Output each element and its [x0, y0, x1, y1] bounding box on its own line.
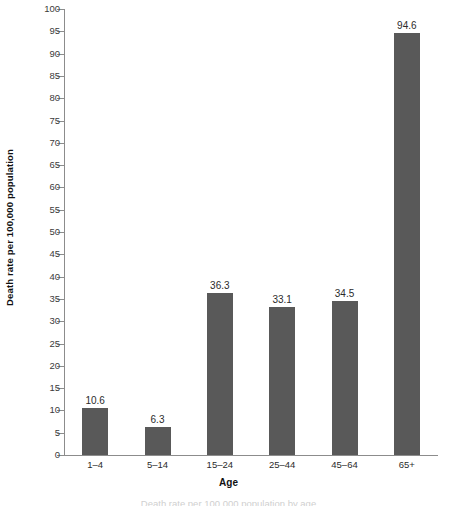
bar-chart-figure: Death rate per 100,000 population 051015…	[0, 0, 457, 506]
bar-value-label: 94.6	[397, 20, 416, 31]
bar: 34.5	[332, 301, 358, 455]
bar-value-label: 36.3	[210, 280, 229, 291]
y-axis-tick-label: 90	[49, 48, 60, 59]
y-axis-title: Death rate per 100,000 population	[0, 0, 18, 455]
bar-value-label: 34.5	[335, 288, 354, 299]
bar: 33.1	[269, 307, 295, 455]
y-axis-tick-label: 40	[49, 271, 60, 282]
plot-area: 0510152025303540455055606570758085909510…	[64, 9, 438, 456]
y-axis-tick-label: 80	[49, 92, 60, 103]
y-axis-tick-label: 60	[49, 181, 60, 192]
bar: 94.6	[394, 33, 420, 455]
x-axis-category-label: 15–24	[207, 459, 233, 470]
y-axis-tick-label: 45	[49, 248, 60, 259]
y-axis-tick-label: 35	[49, 293, 60, 304]
y-axis-tick-label: 20	[49, 360, 60, 371]
y-axis-title-label: Death rate per 100,000 population	[4, 149, 15, 306]
x-axis-category-label: 45–64	[331, 459, 357, 470]
y-axis-tick-label: 70	[49, 137, 60, 148]
y-axis-line	[64, 9, 65, 456]
y-axis-tick-label: 5	[55, 427, 60, 438]
y-axis-tick-label: 30	[49, 315, 60, 326]
y-axis-tick-label: 100	[44, 3, 60, 14]
x-axis-line	[64, 455, 438, 456]
bar: 36.3	[207, 293, 233, 455]
y-axis-tick-label: 65	[49, 159, 60, 170]
bar-value-label: 33.1	[272, 294, 291, 305]
x-axis-category-label: 25–44	[269, 459, 295, 470]
y-axis-tick-label: 10	[49, 404, 60, 415]
y-axis-tick-label: 25	[49, 338, 60, 349]
y-axis-tick-label: 0	[55, 449, 60, 460]
y-axis-tick-label: 15	[49, 382, 60, 393]
y-axis-tick-label: 55	[49, 204, 60, 215]
y-axis-tick-label: 85	[49, 70, 60, 81]
y-axis-tick-label: 95	[49, 25, 60, 36]
x-axis-category-label: 5–14	[147, 459, 168, 470]
y-axis-tick-label: 50	[49, 226, 60, 237]
bar-value-label: 10.6	[85, 395, 104, 406]
bar: 10.6	[82, 408, 108, 455]
bar-value-label: 6.3	[151, 414, 165, 425]
bar: 6.3	[145, 427, 171, 455]
x-axis-category-label: 65+	[399, 459, 415, 470]
x-axis-title: Age	[0, 477, 457, 488]
y-axis-tick-label: 75	[49, 115, 60, 126]
cut-off-caption: Death rate per 100,000 population by age	[0, 498, 457, 506]
x-axis-category-label: 1–4	[87, 459, 103, 470]
